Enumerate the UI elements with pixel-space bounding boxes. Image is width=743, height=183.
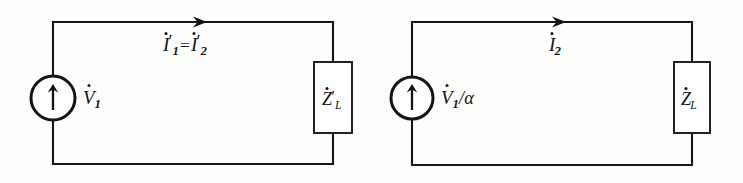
right-current-first-subscript: 2	[555, 43, 561, 58]
circuit-figure: I′1=I′2 V1 Z′L I2 V1/α ZL	[0, 0, 743, 183]
left-source-subscript: 1	[95, 96, 101, 111]
left-current-first-subscript: 1	[173, 43, 179, 58]
right-source-symbol: V	[441, 88, 453, 107]
right-source-suffix: /α	[459, 88, 474, 108]
circuit-schematic-svg	[0, 0, 743, 183]
left-impedance-subscript: L	[335, 99, 341, 111]
left-impedance-symbol: Z	[322, 90, 332, 108]
left-current-label: I′1=I′2	[163, 33, 207, 58]
right-source-label: V1/α	[441, 88, 474, 111]
right-impedance-subscript: L	[690, 99, 696, 111]
right-current-label: I2	[549, 33, 561, 58]
left-source-label: V1	[83, 88, 101, 111]
right-current-first-symbol: I	[549, 35, 555, 54]
left-current-equals-sign: =	[180, 35, 190, 55]
left-impedance-label: Z′L	[322, 88, 342, 111]
right-impedance-label: ZL	[681, 88, 697, 111]
right-impedance-symbol: Z	[681, 90, 691, 108]
left-current-second-symbol: I	[191, 35, 197, 54]
left-current-first-symbol: I	[163, 35, 169, 54]
left-source-symbol: V	[83, 88, 95, 107]
left-current-second-subscript: 2	[200, 43, 206, 58]
